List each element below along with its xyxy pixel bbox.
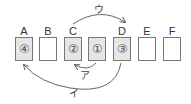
arrow-u-icon	[73, 14, 125, 24]
arrow-label-i: イ	[69, 88, 79, 99]
arrow-label-a: ア	[80, 70, 90, 81]
arrow-a-icon	[75, 63, 96, 68]
arrow-i-icon	[24, 63, 121, 89]
arrow-label-u: ウ	[94, 4, 104, 15]
arrows-layer	[0, 0, 191, 104]
